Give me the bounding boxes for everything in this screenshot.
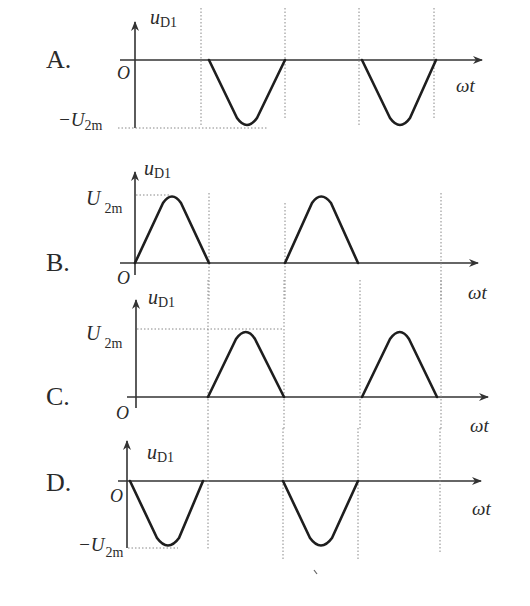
waveform-pulse (362, 332, 437, 397)
origin-label: O (117, 63, 130, 83)
x-axis-label: ωt (456, 75, 475, 96)
y-axis-label: uD1 (144, 157, 171, 181)
option-a-label: A. (46, 45, 71, 74)
waveform-pulse (362, 60, 436, 125)
panel-a: A. uD1 O −U2m ωt (46, 6, 482, 133)
amplitude-label: −U2m (78, 534, 124, 560)
x-axis-label: ωt (468, 282, 487, 303)
amplitude-label: −U2m (58, 109, 103, 133)
waveform-figure: A. uD1 O −U2m ωt B. uD1 O U2m ωt C. (0, 0, 530, 606)
origin-label: O (110, 486, 123, 506)
y-axis-label: uD1 (150, 6, 177, 30)
waveform-pulse (209, 60, 285, 125)
y-axis-label: uD1 (148, 286, 175, 310)
waveform-pulse (285, 197, 358, 264)
waveform-pulse (130, 481, 203, 546)
option-d-label: D. (46, 468, 71, 497)
option-b-label: B. (46, 248, 70, 277)
amplitude-label: U2m (86, 187, 122, 216)
x-axis-label: ωt (472, 498, 491, 519)
panel-d: D. uD1 O −U2m ωt (46, 428, 491, 574)
amplitude-label: U2m (86, 322, 122, 351)
panel-c: C. uD1 O U2m ωt (46, 280, 489, 436)
panel-b: B. uD1 O U2m ωt (46, 157, 487, 303)
x-axis-label: ωt (470, 415, 489, 436)
origin-label: O (117, 268, 130, 288)
y-axis-label: uD1 (147, 441, 174, 465)
option-c-label: C. (46, 382, 70, 411)
waveform-pulse (283, 481, 358, 546)
waveform-pulse (135, 197, 209, 264)
origin-label: O (116, 403, 129, 423)
waveform-pulse (208, 332, 284, 397)
